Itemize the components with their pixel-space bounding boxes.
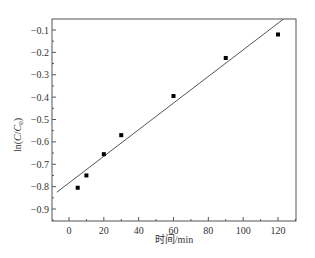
y-tick-label: −0.8 xyxy=(31,181,49,192)
data-point xyxy=(119,133,123,137)
x-tick-label: 40 xyxy=(134,225,144,236)
y-tick-label: −0.6 xyxy=(31,136,49,147)
x-tick-label: 80 xyxy=(203,225,213,236)
y-tick-label: −0.7 xyxy=(31,159,49,170)
data-point xyxy=(276,32,280,36)
y-tick-label: −0.5 xyxy=(31,114,49,125)
x-axis-title: 时间/min xyxy=(155,233,193,245)
chart-canvas: 020406080100120−0.1−0.2−0.3−0.4−0.5−0.6−… xyxy=(0,0,315,258)
y-tick-label: −0.2 xyxy=(31,47,49,58)
data-point xyxy=(76,186,80,190)
y-tick-label: −0.9 xyxy=(31,204,49,215)
fit-line xyxy=(57,17,287,193)
x-tick-label: 0 xyxy=(67,225,72,236)
y-tick-label: −0.4 xyxy=(31,92,49,103)
y-axis-title: ln(C/C0) xyxy=(12,118,25,152)
x-tick-label: 20 xyxy=(99,225,109,236)
data-point xyxy=(224,56,228,60)
data-point xyxy=(172,94,176,98)
y-tick-label: −0.1 xyxy=(31,25,49,36)
y-tick-label: −0.3 xyxy=(31,69,49,80)
data-point xyxy=(102,152,106,156)
plot-frame xyxy=(52,19,296,221)
x-tick-label: 100 xyxy=(236,225,251,236)
data-point xyxy=(84,173,88,177)
x-tick-label: 120 xyxy=(271,225,286,236)
